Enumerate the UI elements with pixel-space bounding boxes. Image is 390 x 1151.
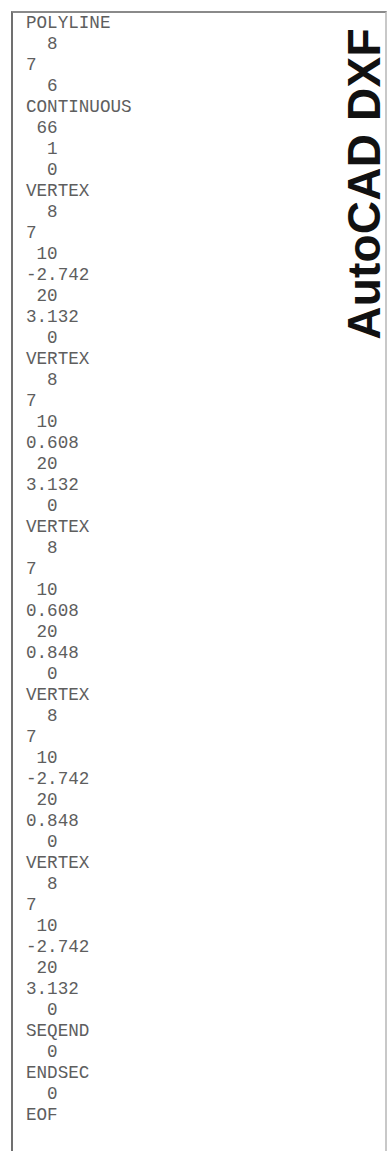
code-line: 0.848 [26, 643, 132, 664]
code-line: 7 [26, 559, 132, 580]
code-line: 10 [26, 916, 132, 937]
code-line: 10 [26, 748, 132, 769]
code-line: 10 [26, 412, 132, 433]
code-line: 0 [26, 496, 132, 517]
code-line: VERTEX [26, 853, 132, 874]
code-line: CONTINUOUS [26, 97, 132, 118]
code-line: POLYLINE [26, 13, 132, 34]
code-line: 3.132 [26, 475, 132, 496]
code-line: 7 [26, 55, 132, 76]
code-line: 0 [26, 664, 132, 685]
code-line: 20 [26, 790, 132, 811]
code-line: -2.742 [26, 265, 132, 286]
code-line: 0 [26, 328, 132, 349]
code-line: 8 [26, 202, 132, 223]
code-line: -2.742 [26, 937, 132, 958]
code-line: 20 [26, 286, 132, 307]
code-line: 20 [26, 454, 132, 475]
code-line: 0.848 [26, 811, 132, 832]
code-line: 0 [26, 1000, 132, 1021]
code-line: 0 [26, 160, 132, 181]
code-line: EOF [26, 1105, 132, 1126]
code-line: 7 [26, 391, 132, 412]
code-line: 0.608 [26, 601, 132, 622]
code-line: 8 [26, 34, 132, 55]
vertical-title: AutoCAD DXF [341, 28, 387, 339]
code-line: SEQEND [26, 1021, 132, 1042]
code-line: 0 [26, 1084, 132, 1105]
code-line: VERTEX [26, 517, 132, 538]
code-line: VERTEX [26, 349, 132, 370]
code-line: VERTEX [26, 685, 132, 706]
code-line: 7 [26, 895, 132, 916]
code-line: VERTEX [26, 181, 132, 202]
code-line: 8 [26, 706, 132, 727]
code-line: 10 [26, 580, 132, 601]
code-line: ENDSEC [26, 1063, 132, 1084]
code-line: 6 [26, 76, 132, 97]
code-line: 7 [26, 727, 132, 748]
code-line: 7 [26, 223, 132, 244]
code-line: 20 [26, 622, 132, 643]
code-line: 0 [26, 832, 132, 853]
code-line: 3.132 [26, 979, 132, 1000]
code-line: 20 [26, 958, 132, 979]
code-line: 0.608 [26, 433, 132, 454]
code-line: 3.132 [26, 307, 132, 328]
code-line: -2.742 [26, 769, 132, 790]
code-line: 8 [26, 538, 132, 559]
code-line: 0 [26, 1042, 132, 1063]
code-line: 1 [26, 139, 132, 160]
code-line: 66 [26, 118, 132, 139]
code-line: 8 [26, 874, 132, 895]
code-line: 8 [26, 370, 132, 391]
dxf-code-listing: POLYLINE 87 6CONTINUOUS 66 1 0VERTEX 87 … [26, 13, 132, 1126]
code-line: 10 [26, 244, 132, 265]
